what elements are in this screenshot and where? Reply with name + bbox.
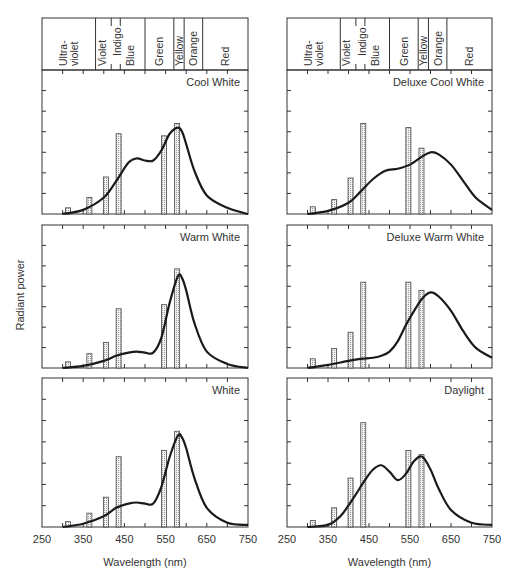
- mercury-line-bar: [361, 123, 366, 214]
- panel-title: White: [212, 384, 240, 396]
- mercury-line-bar: [161, 450, 166, 527]
- mercury-line-bar: [175, 431, 180, 527]
- panel-title: Daylight: [444, 384, 484, 396]
- spectrum-band-label: Orange: [187, 31, 199, 66]
- mercury-line-bar: [103, 497, 108, 527]
- mercury-line-bar: [361, 282, 366, 368]
- mercury-line-bar: [348, 178, 353, 214]
- mercury-line-bar: [406, 128, 411, 214]
- mercury-line-bar: [103, 342, 108, 368]
- panel-daylight: Daylight: [287, 378, 492, 527]
- spectrum-band-label: Green: [153, 37, 165, 66]
- mercury-line-bar: [332, 200, 337, 214]
- spectrum-band-label: Blue: [124, 45, 136, 66]
- mercury-line-bar: [87, 513, 92, 527]
- mercury-line-bar: [332, 508, 337, 527]
- panel-title: Warm White: [180, 231, 240, 243]
- mercury-line-bar: [175, 123, 180, 214]
- spectrum-band-label: Green: [398, 37, 410, 66]
- x-tick-label: 750: [483, 533, 501, 545]
- spectrum-band-label: violet: [68, 41, 80, 66]
- spectrum-band-header: Ultra-violetVioletIndigoBlueGreenYellowO…: [42, 18, 248, 70]
- spectrum-band-label: Orange: [432, 31, 444, 66]
- x-tick-label: 650: [198, 533, 216, 545]
- x-tick-label: 650: [442, 533, 460, 545]
- x-tick-label: 550: [401, 533, 419, 545]
- panel-title: Deluxe Warm White: [387, 231, 484, 243]
- x-tick-label: 550: [156, 533, 174, 545]
- spectrum-band-label: violet: [313, 41, 325, 66]
- panel-cool-white: Cool White: [42, 70, 248, 214]
- mercury-line-bar: [406, 450, 411, 527]
- spectrum-band-label: Yellow: [417, 36, 429, 66]
- spectrum-band-label: Red: [219, 47, 231, 66]
- x-tick-label: 250: [33, 533, 51, 545]
- panel-white: White: [42, 378, 248, 527]
- x-axis-title: Wavelength (nm): [348, 556, 431, 568]
- mercury-line-bar: [116, 457, 121, 527]
- spectrum-band-label: Blue: [369, 45, 381, 66]
- panel-title: Deluxe Cool White: [393, 76, 484, 88]
- panel-deluxe-cool-white: Deluxe Cool White: [287, 70, 492, 214]
- x-tick-label: 450: [115, 533, 133, 545]
- mercury-line-bar: [116, 309, 121, 368]
- x-tick-label: 250: [278, 533, 296, 545]
- x-axis-title: Wavelength (nm): [103, 556, 186, 568]
- panel-warm-white: Warm White: [42, 225, 248, 368]
- x-tick-label: 350: [319, 533, 337, 545]
- panel-deluxe-warm-white: Deluxe Warm White: [287, 225, 492, 368]
- panel-title: Cool White: [186, 76, 240, 88]
- mercury-line-bar: [348, 332, 353, 368]
- mercury-line-bar: [419, 455, 424, 527]
- spectrum-band-label: Violet: [340, 40, 352, 66]
- spectrum-band-label: Indigo: [111, 27, 123, 56]
- spectral-power-figure: Ultra-violetVioletIndigoBlueGreenYellowO…: [0, 0, 519, 577]
- spectrum-band-header: Ultra-violetVioletIndigoBlueGreenYellowO…: [287, 18, 492, 70]
- x-tick-label: 450: [360, 533, 378, 545]
- spectrum-band-label: Violet: [96, 40, 108, 66]
- x-tick-label: 350: [74, 533, 92, 545]
- x-tick-label: 750: [239, 533, 257, 545]
- mercury-line-bar: [361, 423, 366, 527]
- y-axis-title: Radiant power: [14, 259, 26, 330]
- spectrum-band-label: Red: [463, 47, 475, 66]
- spectrum-band-label: Indigo: [356, 27, 368, 56]
- spectrum-band-label: Yellow: [173, 36, 185, 66]
